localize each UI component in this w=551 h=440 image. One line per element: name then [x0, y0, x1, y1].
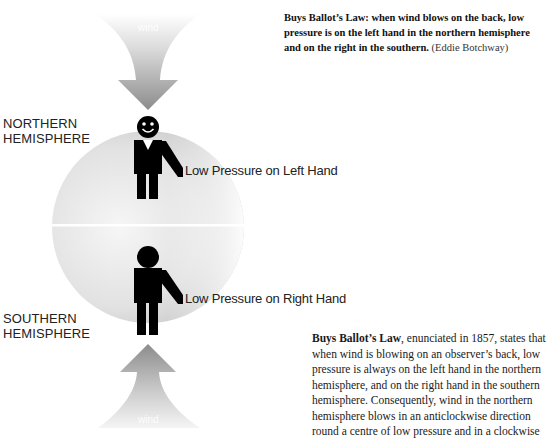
diagram-graphic — [0, 0, 300, 428]
low-pressure-left-label: Low Pressure on Left Hand — [185, 163, 338, 178]
body-line-3: pressure is always on the left hand in t… — [312, 362, 551, 378]
southern-label-line2: HEMISPHERE — [3, 326, 90, 341]
low-pressure-right-label: Low Pressure on Right Hand — [185, 291, 346, 306]
body-line-7: round a centre of low pressure and in a … — [312, 424, 551, 440]
body-line-1: Buys Ballot’s Law, enunciated in 1857, s… — [312, 331, 551, 347]
northern-hemisphere-label: NORTHERN HEMISPHERE — [3, 116, 90, 146]
body-line-1-text: , enunciated in 1857, states that — [401, 332, 546, 344]
caption-line-2: pressure is on the left hand in the nort… — [284, 25, 534, 40]
wind-label-bottom: wind — [138, 414, 159, 425]
equator-line — [50, 224, 250, 227]
northern-label-line2: HEMISPHERE — [3, 131, 90, 146]
caption-line-3-text: and on the right in the southern. — [284, 42, 429, 53]
northern-label-line1: NORTHERN — [3, 116, 90, 131]
caption-line-1: Buys Ballot’s Law: when wind blows on th… — [284, 10, 534, 25]
southern-hemisphere-label: SOUTHERN HEMISPHERE — [3, 311, 90, 341]
body-line-6: hemisphere blows in an anticlockwise dir… — [312, 409, 551, 425]
caption-credit: (Eddie Botchway) — [432, 42, 509, 53]
southern-label-line1: SOUTHERN — [3, 311, 90, 326]
body-line-4: hemisphere, and on the right hand in the… — [312, 378, 551, 394]
caption-line-3: and on the right in the southern. (Eddie… — [284, 40, 534, 55]
body-line-2: when wind is blowing on an observer’s ba… — [312, 347, 551, 363]
buys-ballot-diagram: wind wind NORTHERN HEMISPHERE SOUTHERN H… — [0, 0, 300, 428]
body-lead: Buys Ballot’s Law — [312, 332, 401, 344]
wind-label-top: wind — [138, 22, 159, 33]
body-line-5: hemisphere. Consequently, wind in the no… — [312, 393, 551, 409]
figure-caption: Buys Ballot’s Law: when wind blows on th… — [284, 10, 534, 55]
body-paragraph: Buys Ballot’s Law, enunciated in 1857, s… — [312, 331, 551, 440]
